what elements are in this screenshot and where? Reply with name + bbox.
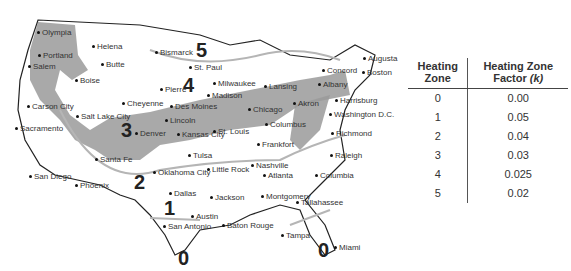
city-dot-icon [330, 154, 333, 157]
table-row: 20.04 [408, 127, 568, 146]
city-label: Harrisburg [340, 97, 377, 105]
city-dot-icon [169, 192, 172, 195]
city-dot-icon [248, 108, 251, 111]
city-label: Salem [33, 63, 56, 71]
factor-cell: 0.025 [468, 165, 568, 184]
city-label: Santa Fe [100, 156, 132, 164]
city-label: Columbia [320, 172, 354, 180]
city-dot-icon [170, 105, 173, 108]
zone-cell: 1 [408, 108, 468, 127]
zone-number-label: 1 [164, 198, 175, 218]
zone-number-label: 2 [134, 172, 145, 192]
city-dot-icon [261, 195, 264, 198]
city-dot-icon [315, 174, 318, 177]
city-dot-icon [281, 234, 284, 237]
city-label: Carson City [32, 103, 74, 111]
city-dot-icon [210, 196, 213, 199]
city-dot-icon [251, 164, 254, 167]
city-dot-icon [122, 102, 125, 105]
city-dot-icon [188, 154, 191, 157]
city-dot-icon [28, 65, 31, 68]
city-dot-icon [222, 224, 225, 227]
table-row: 30.03 [408, 146, 568, 165]
city-label: Bismarck [160, 49, 193, 57]
city-label: Albany [323, 81, 347, 89]
city-label: Lincoln [170, 117, 195, 125]
factor-cell: 0.00 [468, 89, 568, 109]
city-label: Concord [327, 67, 357, 75]
city-dot-icon [265, 123, 268, 126]
factor-cell: 0.04 [468, 127, 568, 146]
city-dot-icon [101, 63, 104, 66]
zone-number-label: 5 [196, 40, 207, 60]
city-dot-icon [75, 79, 78, 82]
city-dot-icon [160, 88, 163, 91]
city-dot-icon [322, 69, 325, 72]
city-label: Cheyenne [127, 100, 163, 108]
city-label: St. Paul [194, 64, 222, 72]
city-dot-icon [27, 105, 30, 108]
zone-cell: 5 [408, 184, 468, 203]
factor-cell: 0.02 [468, 184, 568, 203]
zone-cell: 0 [408, 89, 468, 109]
city-label: San Antonio [168, 223, 211, 231]
city-label: Frankfort [262, 141, 294, 149]
city-label: Raleigh [335, 152, 362, 160]
city-label: Tulsa [193, 152, 212, 160]
city-dot-icon [296, 201, 299, 204]
city-dot-icon [92, 45, 95, 48]
zone-number-label: 4 [183, 75, 194, 95]
city-dot-icon [329, 113, 332, 116]
city-label: Chicago [253, 106, 282, 114]
city-label: Augusta [368, 55, 397, 63]
city-dot-icon [153, 171, 156, 174]
city-dot-icon [155, 51, 158, 54]
city-dot-icon [76, 115, 79, 118]
city-dot-icon [207, 94, 210, 97]
heating-zone-map: OlympiaPortlandSalemHelenaButteBoiseBism… [0, 0, 420, 271]
city-label: Milwaukee [218, 80, 256, 88]
city-label: Madison [212, 92, 242, 100]
city-dot-icon [165, 119, 168, 122]
city-label: Butte [106, 61, 125, 69]
city-label: Dallas [174, 190, 196, 198]
city-label: Boston [367, 69, 392, 77]
city-dot-icon [15, 127, 18, 130]
city-label: Austin [196, 213, 218, 221]
city-label: Oklahoma City [158, 169, 210, 177]
factor-cell: 0.03 [468, 146, 568, 165]
city-label: Lansing [269, 83, 297, 91]
city-dot-icon [191, 215, 194, 218]
city-dot-icon [264, 85, 267, 88]
city-label: Sacramento [20, 125, 63, 133]
city-dot-icon [75, 184, 78, 187]
city-label: Washington D.C. [334, 111, 394, 119]
city-dot-icon [163, 225, 166, 228]
city-dot-icon [257, 143, 260, 146]
header-heating-zone-factor: Heating ZoneFactor (k) [468, 58, 568, 89]
table-row: 40.025 [408, 165, 568, 184]
table-row: 10.05 [408, 108, 568, 127]
city-label: Nashville [256, 162, 288, 170]
city-dot-icon [293, 102, 296, 105]
zone-number-label: 0 [318, 240, 329, 260]
city-dot-icon [177, 133, 180, 136]
zone-number-label: 0 [178, 248, 189, 268]
city-label: Little Rock [212, 166, 249, 174]
city-label: Denver [140, 130, 166, 138]
city-dot-icon [213, 130, 216, 133]
city-dot-icon [335, 99, 338, 102]
city-label: Portland [43, 52, 73, 60]
city-dot-icon [135, 132, 138, 135]
city-dot-icon [213, 82, 216, 85]
city-label: Richmond [336, 130, 372, 138]
city-dot-icon [318, 83, 321, 86]
city-label: Akron [298, 100, 319, 108]
city-label: Olympia [42, 29, 71, 37]
city-label: Miami [339, 244, 360, 252]
zone-cell: 2 [408, 127, 468, 146]
city-dot-icon [362, 71, 365, 74]
city-dot-icon [37, 31, 40, 34]
city-dot-icon [363, 57, 366, 60]
city-label: Tampa [286, 232, 310, 240]
